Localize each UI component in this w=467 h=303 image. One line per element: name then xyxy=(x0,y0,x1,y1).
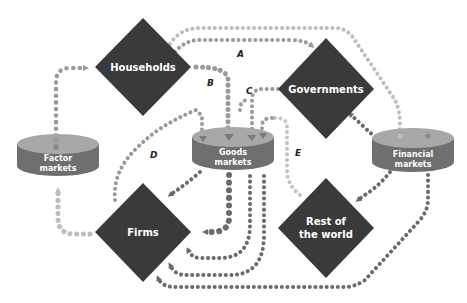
factor-markets-label-2: markets xyxy=(40,164,77,173)
firms-label: Firms xyxy=(127,227,159,238)
flow-financial-to-world xyxy=(358,172,390,200)
node-firms: Firms xyxy=(95,183,191,282)
flow-d-firms-to-goods xyxy=(115,110,202,200)
node-households: Households xyxy=(95,18,191,116)
rest-of-world-label-1: Rest of xyxy=(306,216,347,227)
flow-c-governments-to-goods xyxy=(252,89,278,134)
flow-firms-to-factor xyxy=(58,190,90,234)
node-governments: Governments xyxy=(278,38,374,139)
flow-goods-to-firms-diagonal xyxy=(170,172,200,195)
flow-financial-to-goods xyxy=(240,100,248,110)
factor-markets-label-1: Factor xyxy=(44,154,72,163)
flow-label-e: E xyxy=(295,148,302,158)
rest-of-world-label-2: the world xyxy=(299,229,353,240)
circular-flow-diagram: Households Governments Firms Rest of the… xyxy=(0,0,467,303)
flow-goods-to-firms-loop2 xyxy=(188,176,250,258)
goods-markets-label-1: Goods xyxy=(219,148,247,157)
flow-label-c: C xyxy=(246,86,253,96)
flow-label-a: A xyxy=(236,49,244,59)
goods-markets-label-2: markets xyxy=(215,158,252,167)
governments-label: Governments xyxy=(288,84,364,95)
node-financial-markets: Financial markets xyxy=(372,128,454,172)
flow-goods-to-firms-main xyxy=(205,175,229,232)
financial-markets-label-1: Financial xyxy=(393,150,434,159)
node-factor-markets: Factor markets xyxy=(17,134,99,176)
flow-label-b: B xyxy=(207,78,214,88)
flow-b-households-to-goods xyxy=(196,67,228,132)
node-goods-markets: Goods markets xyxy=(192,127,274,170)
node-rest-of-world: Rest of the world xyxy=(278,178,374,278)
flow-label-d: D xyxy=(150,150,158,160)
flow-factor-to-households xyxy=(56,68,86,142)
financial-markets-label-2: markets xyxy=(395,160,432,169)
households-label: Households xyxy=(110,62,176,73)
